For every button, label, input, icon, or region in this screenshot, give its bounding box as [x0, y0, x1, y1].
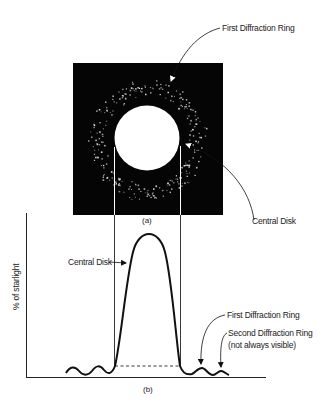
label-central-disk-b: Central Disk [68, 257, 113, 267]
second-ring-arrow-b [221, 333, 227, 367]
panel-b: % of starlight Central Disk First Diffra… [11, 213, 313, 394]
airy-pattern-diagram: First Diffraction Ring Central Disk (a) … [0, 0, 331, 408]
first-ring-arrow-b [201, 315, 225, 364]
central-disk-image [115, 106, 180, 171]
intensity-curve [66, 234, 229, 375]
label-second-ring-b: Second Diffraction Ring [228, 328, 313, 338]
label-first-ring-a: First Diffraction Ring [222, 23, 295, 33]
label-central-disk-a: Central Disk [252, 216, 297, 226]
label-second-ring-note: (not always visible) [228, 340, 296, 350]
y-axis-label: % of starlight [11, 263, 21, 310]
panel-a: First Diffraction Ring Central Disk (a) [73, 23, 297, 226]
panel-a-caption: (a) [142, 216, 152, 225]
label-first-ring-b: First Diffraction Ring [227, 310, 300, 320]
panel-b-caption: (b) [143, 385, 153, 394]
